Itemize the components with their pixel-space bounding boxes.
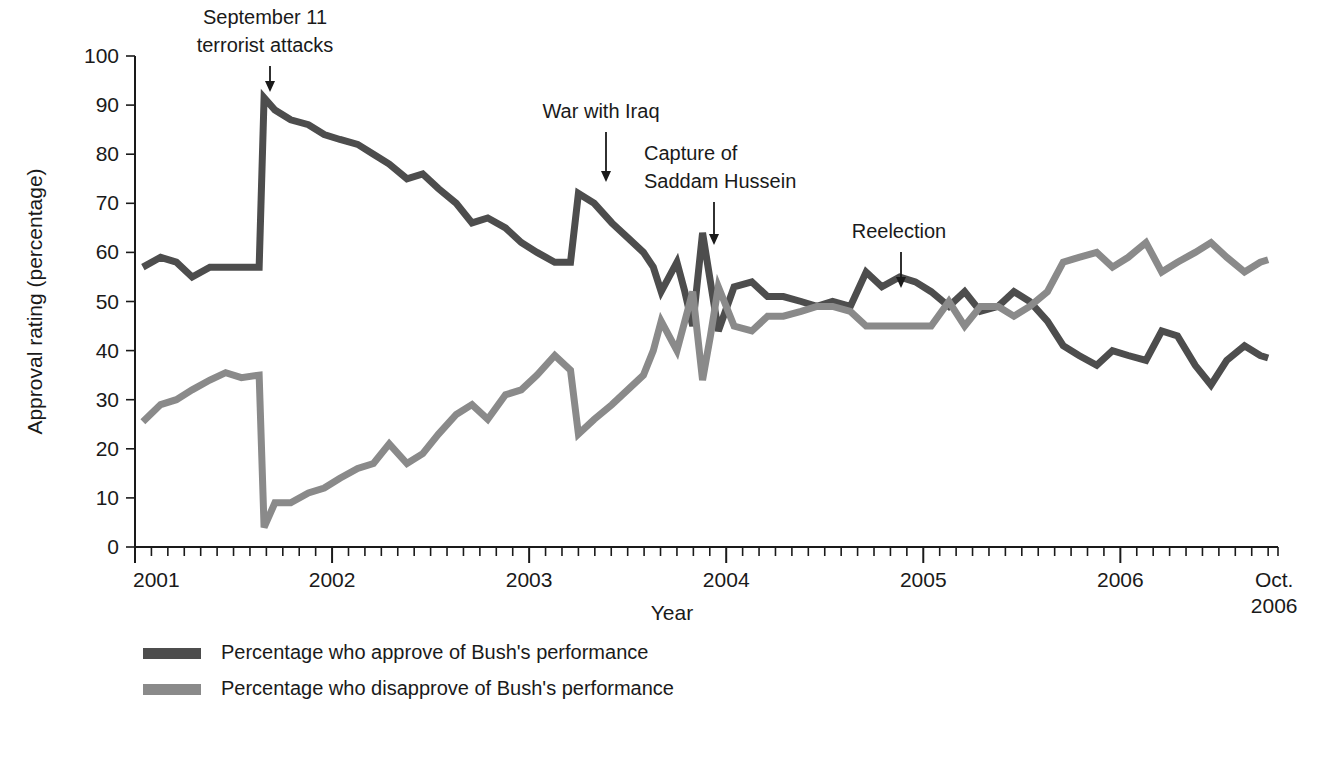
annotation-label: terrorist attacks <box>197 34 334 56</box>
y-tick-label: 40 <box>96 339 119 362</box>
annotation-label: September 11 <box>203 6 327 28</box>
chart-canvas: 0102030405060708090100 20012002200320042… <box>0 0 1330 775</box>
annotation-arrow-head-icon <box>601 171 611 182</box>
x-axis-title: Year <box>651 601 693 624</box>
y-tick-label: 0 <box>107 535 119 558</box>
x-tick-label-second-line: 2006 <box>1251 594 1298 617</box>
y-tick-label: 50 <box>96 290 119 313</box>
y-tick-label: 70 <box>96 191 119 214</box>
x-axis-tick-group <box>135 547 1278 563</box>
y-tick-label: 90 <box>96 93 119 116</box>
legend-label: Percentage who disapprove of Bush's perf… <box>221 677 674 699</box>
legend-swatch <box>143 684 201 695</box>
approval-rating-chart-figure: 0102030405060708090100 20012002200320042… <box>0 0 1330 775</box>
legend-label: Percentage who approve of Bush's perform… <box>221 641 648 663</box>
y-axis-tick-labels: 0102030405060708090100 <box>84 44 119 558</box>
series-approve-line <box>143 98 1268 385</box>
annotation-label: War with Iraq <box>542 100 659 122</box>
annotation-arrow-head-icon <box>265 81 275 92</box>
annotation-label: Reelection <box>852 220 947 242</box>
x-tick-label: 2004 <box>703 568 750 591</box>
x-tick-label: Oct. <box>1255 568 1294 591</box>
y-tick-label: 80 <box>96 142 119 165</box>
x-tick-label: 2003 <box>506 568 553 591</box>
y-axis-tick-group <box>126 56 135 547</box>
annotation-arrow-head-icon <box>709 234 719 245</box>
y-axis-title: Approval rating (percentage) <box>23 168 46 434</box>
x-tick-label: 2002 <box>309 568 356 591</box>
x-tick-label: 2005 <box>900 568 947 591</box>
y-tick-label: 100 <box>84 44 119 67</box>
axis-spines <box>135 56 1278 547</box>
x-tick-label: 2006 <box>1097 568 1144 591</box>
annotation-arrow-head-icon <box>896 277 906 288</box>
annotation-label: Saddam Hussein <box>644 170 796 192</box>
legend-swatch <box>143 648 201 659</box>
legend: Percentage who approve of Bush's perform… <box>143 641 674 699</box>
annotation-label: Capture of <box>644 142 738 164</box>
x-axis-tick-labels: 200120022003200420052006Oct.2006 <box>133 568 1298 617</box>
y-tick-label: 20 <box>96 437 119 460</box>
y-tick-label: 60 <box>96 240 119 263</box>
x-tick-label: 2001 <box>133 568 180 591</box>
y-tick-label: 30 <box>96 388 119 411</box>
series-disapprove-line <box>143 243 1268 528</box>
y-tick-label: 10 <box>96 486 119 509</box>
